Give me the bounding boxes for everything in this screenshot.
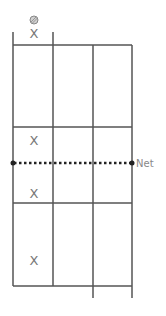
net-label: Net bbox=[136, 158, 154, 169]
ball-icon bbox=[30, 16, 38, 24]
net-post-left bbox=[11, 161, 16, 166]
court-diagram: Net X X X X bbox=[0, 0, 166, 316]
net-post-right bbox=[130, 161, 135, 166]
player-marker-server: X bbox=[30, 26, 39, 41]
player-marker-partner: X bbox=[30, 133, 39, 148]
player-marker-opponent-back: X bbox=[30, 253, 39, 268]
player-marker-opponent-net: X bbox=[30, 186, 39, 201]
